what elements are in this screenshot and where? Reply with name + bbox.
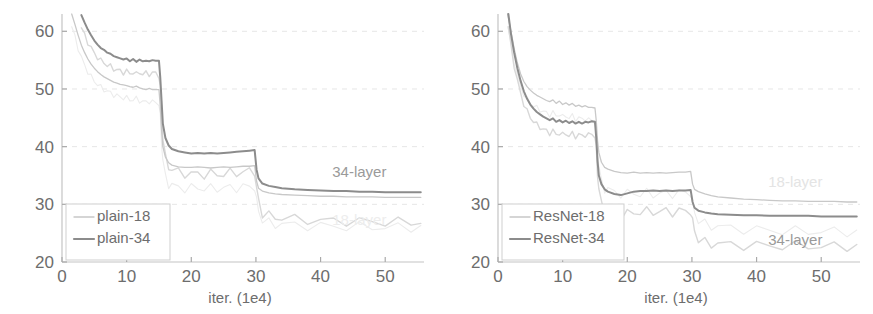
curve-annotation-34-layer: 34-layer bbox=[332, 163, 386, 180]
residual-networks-chart: 2030405060 01020304050 18-layer34-layer … bbox=[436, 0, 873, 314]
x-tick-label: 30 bbox=[682, 267, 701, 286]
x-tick-label: 30 bbox=[246, 267, 265, 286]
x-tick-labels: 01020304050 bbox=[493, 267, 830, 286]
y-tick-label: 50 bbox=[35, 80, 54, 99]
legend[interactable]: ResNet-18ResNet-34 bbox=[502, 204, 624, 260]
x-tick-label: 0 bbox=[57, 267, 66, 286]
chart-panel-plain-networks: 2030405060 01020304050 34-layer18-layer … bbox=[0, 0, 436, 314]
curve-annotations: 34-layer18-layer bbox=[332, 163, 386, 228]
figure-root: 2030405060 01020304050 34-layer18-layer … bbox=[0, 0, 873, 314]
x-tick-labels: 01020304050 bbox=[57, 267, 394, 286]
y-tick-label: 40 bbox=[471, 138, 490, 157]
x-axis-title: iter. (1e4) bbox=[208, 289, 271, 306]
curve-annotations: 18-layer34-layer bbox=[768, 173, 822, 248]
train-curve bbox=[72, 27, 421, 233]
x-tick-label: 10 bbox=[553, 267, 572, 286]
legend-label-resnet-18[interactable]: ResNet-18 bbox=[533, 207, 605, 224]
x-axis-title: iter. (1e4) bbox=[644, 289, 707, 306]
legend-label-plain-18[interactable]: plain-18 bbox=[97, 207, 150, 224]
x-tick-label: 50 bbox=[812, 267, 831, 286]
x-tick-label: 20 bbox=[182, 267, 201, 286]
curve-annotation-18-layer: 18-layer bbox=[332, 211, 386, 228]
y-tick-labels: 2030405060 bbox=[471, 22, 490, 272]
chart-panel-residual-networks: 2030405060 01020304050 18-layer34-layer … bbox=[436, 0, 873, 314]
y-tick-labels: 2030405060 bbox=[35, 22, 54, 272]
curve-annotation-18-layer: 18-layer bbox=[768, 173, 822, 190]
y-tick-label: 20 bbox=[471, 253, 490, 272]
y-tick-label: 50 bbox=[471, 80, 490, 99]
y-tick-label: 30 bbox=[471, 195, 490, 214]
legend[interactable]: plain-18plain-34 bbox=[66, 204, 170, 260]
x-tick-label: 40 bbox=[311, 267, 330, 286]
x-tick-label: 10 bbox=[117, 267, 136, 286]
plain-networks-chart: 2030405060 01020304050 34-layer18-layer … bbox=[0, 0, 436, 314]
y-tick-label: 20 bbox=[35, 253, 54, 272]
legend-label-plain-34[interactable]: plain-34 bbox=[97, 229, 150, 246]
y-tick-label: 60 bbox=[471, 22, 490, 41]
y-tick-label: 30 bbox=[35, 195, 54, 214]
curve-annotation-34-layer: 34-layer bbox=[768, 231, 822, 248]
train-curves bbox=[72, 27, 421, 233]
x-tick-label: 50 bbox=[376, 267, 395, 286]
y-tick-label: 60 bbox=[35, 22, 54, 41]
x-tick-label: 40 bbox=[747, 267, 766, 286]
x-tick-label: 0 bbox=[493, 267, 502, 286]
legend-label-resnet-34[interactable]: ResNet-34 bbox=[533, 229, 605, 246]
x-tick-label: 20 bbox=[618, 267, 637, 286]
y-tick-label: 40 bbox=[35, 138, 54, 157]
